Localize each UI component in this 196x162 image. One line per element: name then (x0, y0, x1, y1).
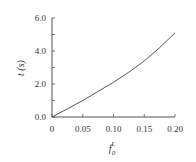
data-line (52, 33, 175, 117)
x-tick-label: 0.15 (136, 124, 152, 134)
y-tick-label: 4.0 (35, 46, 47, 56)
y-axis-label: t (s) (15, 59, 27, 76)
axes (52, 18, 175, 117)
y-tick-label: 2.0 (35, 79, 47, 89)
x-tick-label: 0.20 (167, 124, 183, 134)
y-tick-label: 6.0 (35, 13, 47, 23)
x-tick-label: 0.10 (106, 124, 122, 134)
line-chart: 0.02.04.06.0 00.050.100.150.20 t (s) f0L (0, 0, 196, 162)
x-axis-label: f0L (109, 140, 116, 157)
y-tick-label: 0.0 (35, 112, 47, 122)
x-tick-label: 0.05 (75, 124, 91, 134)
x-tick-label: 0 (50, 124, 55, 134)
